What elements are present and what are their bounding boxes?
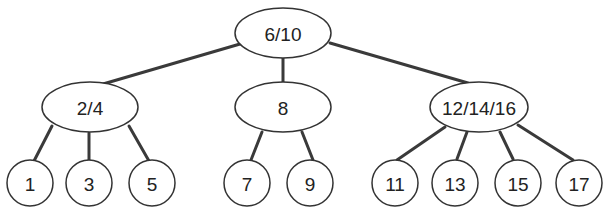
leaf-node-label: 5 <box>147 174 158 195</box>
edge-root-12-14-16 <box>330 43 468 83</box>
leaf-node-11: 11 <box>372 160 418 206</box>
root-node-label: 6/10 <box>265 24 302 45</box>
edge-12-14-16-15 <box>500 132 513 159</box>
edge-2-4-1 <box>34 126 52 161</box>
edge-12-14-16-13 <box>457 132 467 159</box>
internal-node-label: 8 <box>278 98 289 119</box>
leaf-node-5: 5 <box>129 160 175 206</box>
leaf-node-label: 15 <box>507 174 528 195</box>
internal-node-2-4: 2/4 <box>42 82 138 132</box>
internal-node-8: 8 <box>235 82 331 132</box>
leaf-node-7: 7 <box>224 160 270 206</box>
leaf-node-3: 3 <box>66 160 112 206</box>
leaf-node-17: 17 <box>556 160 602 206</box>
internal-node-label: 12/14/16 <box>442 98 516 119</box>
edge-8-9 <box>302 132 313 160</box>
edge-8-7 <box>251 132 262 160</box>
leaf-node-13: 13 <box>432 160 478 206</box>
root-node: 6/10 <box>235 8 331 58</box>
leaf-node-label: 1 <box>25 174 36 195</box>
internal-node-12-14-16: 12/14/16 <box>430 82 528 132</box>
edge-root-2-4 <box>103 44 240 84</box>
leaf-node-9: 9 <box>287 160 333 206</box>
edge-2-4-5 <box>129 126 149 161</box>
leaf-node-label: 13 <box>444 174 465 195</box>
edge-12-14-16-17 <box>518 125 573 160</box>
leaf-node-label: 9 <box>305 174 316 195</box>
tree-diagram: 6/10 2/4 8 12/14/16 1 3 5 7 9 11 13 <box>0 0 609 221</box>
leaf-node-label: 7 <box>242 174 253 195</box>
leaf-node-label: 17 <box>568 174 589 195</box>
edge-12-14-16-11 <box>397 127 445 160</box>
leaf-node-1: 1 <box>7 160 53 206</box>
leaf-node-label: 3 <box>84 174 95 195</box>
internal-node-label: 2/4 <box>77 98 104 119</box>
leaf-node-15: 15 <box>495 160 541 206</box>
leaf-node-label: 11 <box>385 174 405 195</box>
